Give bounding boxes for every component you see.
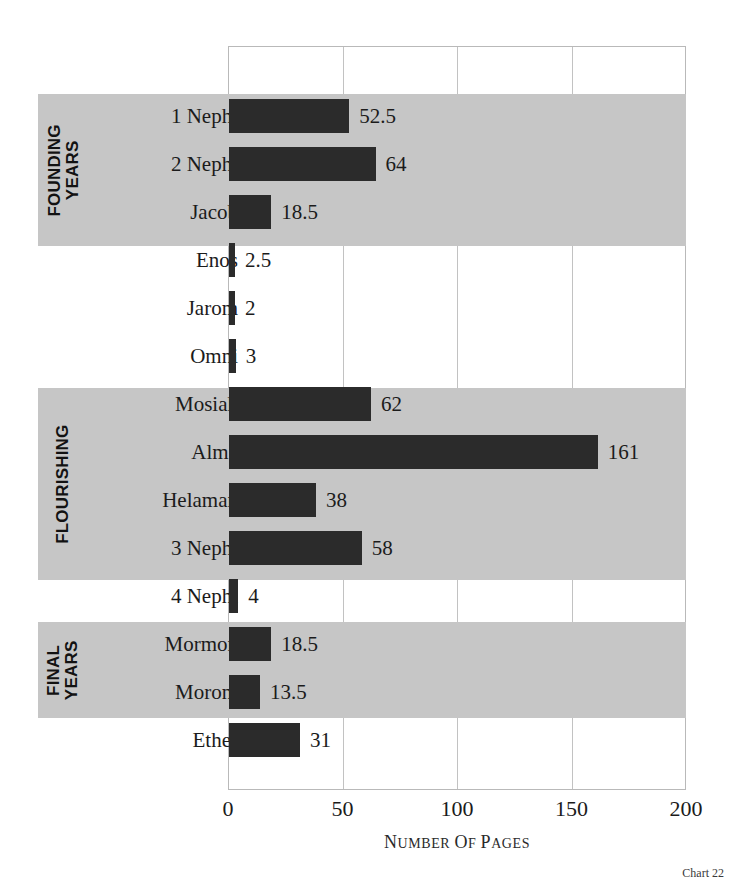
chart-caption: Chart 22 <box>682 866 724 881</box>
bar-category-label: 1 Nephi <box>171 99 238 133</box>
bar-value-label: 3 <box>246 339 257 373</box>
bar <box>229 387 371 421</box>
bar-row: Jarom2 <box>0 291 740 325</box>
x-axis-title: NUMBER OF PAGES <box>228 832 686 853</box>
bar-row: Enos2.5 <box>0 243 740 277</box>
bar-value-label: 52.5 <box>359 99 396 133</box>
bar-value-label: 58 <box>372 531 393 565</box>
bar-value-label: 161 <box>608 435 640 469</box>
bar-row: 2 Nephi64 <box>0 147 740 181</box>
bar-row: Omni3 <box>0 339 740 373</box>
bar-row: 3 Nephi58 <box>0 531 740 565</box>
bar-value-label: 2.5 <box>245 243 271 277</box>
bar-value-label: 18.5 <box>281 195 318 229</box>
bar-value-label: 4 <box>248 579 259 613</box>
bar-value-label: 31 <box>310 723 331 757</box>
bar <box>229 627 271 661</box>
x-axis-tick-label: 50 <box>332 796 354 822</box>
bar-category-label: 2 Nephi <box>171 147 238 181</box>
bar-row: Ether31 <box>0 723 740 757</box>
x-axis-tick-label: 200 <box>670 796 703 822</box>
bar <box>229 291 235 325</box>
bar-category-label: 4 Nephi <box>171 579 238 613</box>
bar <box>229 339 236 373</box>
bar-category-label: 3 Nephi <box>171 531 238 565</box>
bar-row: Alma161 <box>0 435 740 469</box>
bar-value-label: 62 <box>381 387 402 421</box>
bar <box>229 483 316 517</box>
bar <box>229 435 598 469</box>
bar-row: Jacob18.5 <box>0 195 740 229</box>
bar-row: Helaman38 <box>0 483 740 517</box>
x-axis-tick-label: 150 <box>555 796 588 822</box>
x-axis-tick-label: 0 <box>223 796 234 822</box>
bar-value-label: 13.5 <box>270 675 307 709</box>
bar <box>229 147 376 181</box>
bar-value-label: 18.5 <box>281 627 318 661</box>
bar-row: Moroni13.5 <box>0 675 740 709</box>
bar-value-label: 64 <box>386 147 407 181</box>
x-axis-tick-label: 100 <box>441 796 474 822</box>
bar <box>229 579 238 613</box>
bar-value-label: 38 <box>326 483 347 517</box>
bar-value-label: 2 <box>245 291 256 325</box>
bar <box>229 195 271 229</box>
bar-category-label: Mormon <box>165 627 239 661</box>
bar-row: 1 Nephi52.5 <box>0 99 740 133</box>
bar-row: Mormon18.5 <box>0 627 740 661</box>
chart-figure: FOUNDING YEARS FLOURISHING FINAL YEARS 1… <box>0 0 740 896</box>
bar <box>229 243 235 277</box>
bar <box>229 531 362 565</box>
bar <box>229 99 349 133</box>
bar <box>229 723 300 757</box>
bar <box>229 675 260 709</box>
bar-row: 4 Nephi4 <box>0 579 740 613</box>
bar-category-label: Helaman <box>162 483 238 517</box>
bar-row: Mosiah62 <box>0 387 740 421</box>
